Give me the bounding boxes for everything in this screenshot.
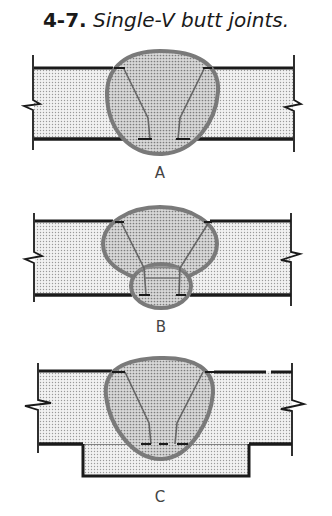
panel-label-c: C (155, 488, 165, 506)
panel-c: C (25, 358, 304, 506)
panel-b: B (25, 207, 300, 336)
weld-diagram: A B (0, 0, 332, 516)
panel-a: A (24, 51, 301, 182)
panel-label-a: A (155, 164, 166, 182)
panel-label-b: B (156, 318, 166, 336)
